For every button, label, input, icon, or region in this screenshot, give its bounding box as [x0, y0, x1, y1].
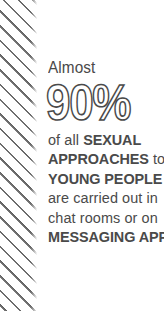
body-line-5: chat rooms or on	[48, 208, 158, 227]
statistic-value: 90%	[46, 78, 130, 128]
body-line-4: are carried out in	[48, 188, 158, 207]
body-line-3: YOUNG PEOPLE	[48, 169, 158, 188]
diagonal-stripe-band	[0, 0, 38, 311]
body-line-1-segment-1: of all	[48, 131, 83, 148]
body-line-1: of all SEXUAL	[48, 130, 158, 149]
body-line-5-segment-1: chat rooms or on	[48, 209, 158, 226]
body-line-3-segment-1: YOUNG PEOPLE	[48, 170, 162, 187]
body-copy: of all SEXUAL APPROACHES to YOUNG PEOPLE…	[48, 130, 164, 246]
body-line-6: MESSAGING APPS.	[48, 227, 158, 246]
body-line-2-segment-1: APPROACHES	[48, 150, 149, 167]
body-line-1-segment-2: SEXUAL	[83, 131, 141, 148]
body-line-2-segment-2: to	[149, 150, 164, 167]
body-line-4-segment-1: are carried out in	[48, 189, 158, 206]
body-line-6-segment-1: MESSAGING APPS.	[48, 228, 164, 245]
body-line-2: APPROACHES to	[48, 149, 158, 168]
infographic-card: Almost 90% of all SEXUAL APPROACHES to Y…	[0, 0, 164, 311]
statistic-text-block: Almost 90% of all SEXUAL APPROACHES to Y…	[48, 0, 164, 311]
